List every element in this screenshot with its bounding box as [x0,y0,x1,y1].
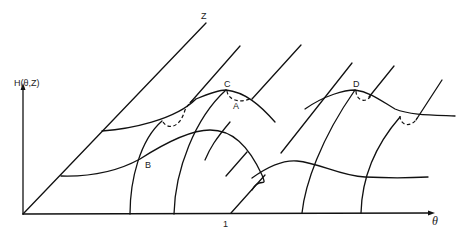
z-axis-label: Z [201,11,207,21]
z-line [190,46,240,103]
z-axis [23,23,206,214]
point-label-d: D [353,79,360,89]
h-axis-label: H(θ,Z) [14,78,40,88]
dashed-loop-a [227,91,252,101]
point-label-a: A [233,101,239,111]
z-line [369,66,394,97]
z-line [231,63,352,213]
theta-curve-front [61,130,264,190]
z-curve [174,90,226,214]
z-direction-lines [190,45,442,213]
theta-curve-back [102,90,275,131]
z-curve [361,117,400,213]
dashed-loop [400,116,417,125]
z-line [226,152,247,176]
theta-curves [61,90,455,190]
theta-axis [23,213,430,214]
surface-diagram: Z H(θ,Z) θ 1 A B C D [0,0,472,236]
point-label-c: C [224,79,231,89]
z-curve [205,122,230,160]
point-label-b: B [145,160,151,170]
z-curve [302,90,355,213]
axes [21,23,436,216]
z-curves [130,90,400,214]
tick-label-1: 1 [223,219,228,229]
theta-curve-front-right [252,161,428,178]
theta-axis-label: θ [432,214,438,228]
labels: Z H(θ,Z) θ 1 A B C D [14,11,438,229]
z-line [252,45,301,99]
